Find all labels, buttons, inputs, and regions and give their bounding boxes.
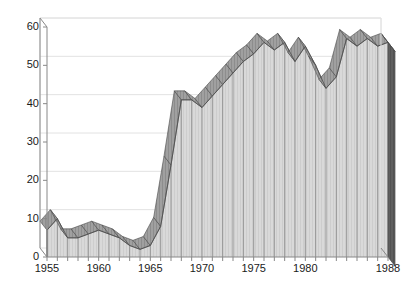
y-axis-depth-connector-top	[40, 18, 47, 27]
x-axis-tick-labels: 1955196019651970197519801988	[35, 262, 400, 274]
y-tick-label: 10	[27, 212, 39, 224]
x-tick-label: 1988	[376, 262, 400, 274]
y-axis-depth-connector-bottom	[40, 248, 47, 257]
series-end-cap	[388, 42, 395, 266]
x-tick-label: 1975	[241, 262, 265, 274]
x-tick-label: 1960	[86, 262, 110, 274]
x-tick-label: 1970	[190, 262, 214, 274]
chart-container: 0102030405060 19551960196519701975198019…	[0, 0, 406, 295]
y-axis-tick-labels: 0102030405060	[27, 20, 39, 262]
x-tick-label: 1980	[293, 262, 317, 274]
y-tick-label: 40	[27, 97, 39, 109]
x-tick-label: 1955	[35, 262, 59, 274]
x-tick-label: 1965	[138, 262, 162, 274]
y-tick-label: 20	[27, 173, 39, 185]
area-series	[40, 30, 395, 267]
y-tick-label: 0	[33, 250, 39, 262]
y-tick-label: 30	[27, 135, 39, 147]
y-tick-label: 50	[27, 58, 39, 70]
y-tick-label: 60	[27, 20, 39, 32]
area-chart-3d: 0102030405060 19551960196519701975198019…	[0, 0, 406, 295]
